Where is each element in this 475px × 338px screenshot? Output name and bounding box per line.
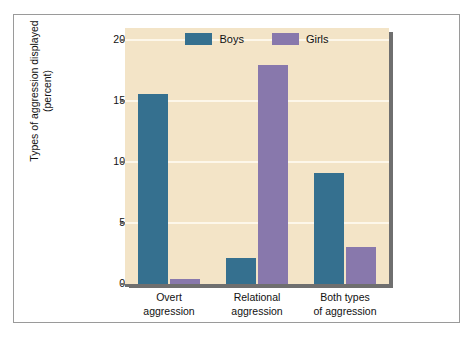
bar-boys-1 (226, 258, 256, 284)
bar-girls-1 (258, 65, 288, 284)
x-axis-category-labels: Overt aggressionRelational aggressionBot… (125, 291, 393, 331)
chart-legend: Boys Girls (125, 33, 389, 45)
figure-root: Types of aggression displayed (percent) … (0, 0, 475, 338)
bar-girls-0 (170, 279, 200, 284)
x-axis-label-0: Overt aggression (125, 291, 213, 318)
x-axis-rule (125, 284, 393, 287)
legend-label-girls: Girls (306, 33, 329, 45)
bar-boys-2 (314, 173, 344, 284)
plot-area: Boys Girls (125, 28, 389, 284)
legend-swatch-girls (272, 33, 299, 45)
y-axis: 05101520 (95, 0, 125, 338)
legend-entry-boys: Boys (185, 33, 243, 45)
legend-label-boys: Boys (219, 33, 243, 45)
x-axis-label-1: Relational aggression (213, 291, 301, 318)
legend-swatch-boys (185, 33, 212, 45)
bar-boys-0 (138, 94, 168, 284)
x-axis-label-2: Both types of aggression (301, 291, 389, 318)
bar-girls-2 (346, 247, 376, 284)
legend-entry-girls: Girls (272, 33, 329, 45)
y-axis-title: Types of aggression displayed (percent) (28, 0, 54, 185)
